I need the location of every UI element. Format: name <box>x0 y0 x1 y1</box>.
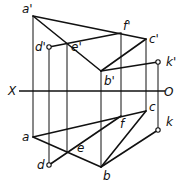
point-d <box>47 163 51 167</box>
label-a: a <box>22 130 29 144</box>
projection-diagram: X O a' d' e' f' c' b' k' a d e f c b k <box>0 0 176 183</box>
label-a-prime: a' <box>22 2 33 16</box>
label-e-prime: e' <box>71 40 82 54</box>
label-f-prime: f' <box>123 19 131 33</box>
label-e: e <box>77 141 84 155</box>
front-view <box>33 16 158 71</box>
label-k: k <box>166 115 174 129</box>
top-view <box>33 111 158 167</box>
point-k <box>156 128 160 132</box>
axis-label-o: O <box>164 85 173 99</box>
axis-label-x: X <box>7 84 17 98</box>
label-k-prime: k' <box>166 55 176 69</box>
label-b: b <box>103 169 111 183</box>
label-d-prime: d' <box>35 40 46 54</box>
label-c: c <box>149 100 156 114</box>
label-b-prime: b' <box>104 74 115 88</box>
label-f: f <box>120 117 126 131</box>
point-k-prime <box>156 60 160 64</box>
point-d-prime <box>47 45 51 49</box>
label-c-prime: c' <box>149 32 159 46</box>
label-d: d <box>37 158 45 172</box>
